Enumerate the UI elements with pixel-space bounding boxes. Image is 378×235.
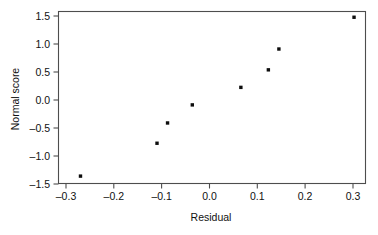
data-point — [239, 86, 242, 89]
x-tick-label: 0.3 — [346, 190, 361, 202]
scatter-plot-svg: –0.3 –0.2 –0.1 0.0 0.1 0.2 0.3 1.5 1.0 0… — [0, 0, 378, 235]
y-axis-tick-labels: 1.5 1.0 0.5 0.0 –0.5 –1.0 –1.5 — [30, 10, 51, 190]
x-axis-title: Residual — [191, 211, 232, 223]
data-point — [79, 174, 82, 177]
data-point — [155, 142, 158, 145]
y-tick-label: 0.5 — [35, 66, 50, 78]
y-tick-label: –0.5 — [30, 122, 51, 134]
data-point — [277, 47, 280, 50]
x-tick-label: 0.0 — [202, 190, 217, 202]
y-tick-label: –1.0 — [30, 150, 51, 162]
x-tick-label: 0.1 — [250, 190, 265, 202]
data-point — [191, 103, 194, 106]
y-axis-ticks — [54, 16, 59, 184]
data-points-layer — [79, 16, 356, 178]
y-tick-label: 1.0 — [35, 38, 50, 50]
x-tick-label: 0.2 — [298, 190, 313, 202]
data-point — [166, 121, 169, 124]
y-tick-label: 1.5 — [35, 10, 50, 22]
data-point — [267, 68, 270, 71]
y-axis-title: Normal score — [9, 68, 21, 131]
data-point — [352, 16, 355, 19]
y-tick-label: –1.5 — [30, 178, 51, 190]
y-tick-label: 0.0 — [35, 94, 50, 106]
plot-frame — [59, 12, 366, 184]
x-tick-label: –0.1 — [151, 190, 172, 202]
x-tick-label: –0.3 — [56, 190, 77, 202]
x-axis-tick-labels: –0.3 –0.2 –0.1 0.0 0.1 0.2 0.3 — [56, 190, 361, 202]
x-tick-label: –0.2 — [104, 190, 125, 202]
normal-probability-plot-figure: –0.3 –0.2 –0.1 0.0 0.1 0.2 0.3 1.5 1.0 0… — [0, 0, 378, 235]
x-axis-ticks — [66, 184, 353, 189]
